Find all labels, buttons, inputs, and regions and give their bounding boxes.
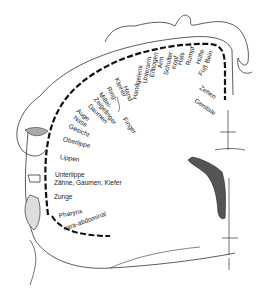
label-zaehne: Zähne, Gaumen, Kiefer [54, 180, 122, 187]
homunculus-face [17, 96, 46, 156]
ventricle-shape [188, 157, 226, 219]
homunculus-drawing [0, 0, 263, 289]
label-zunge: Zunge [54, 194, 72, 201]
label-unterlippe: Unterlippe [55, 172, 85, 179]
